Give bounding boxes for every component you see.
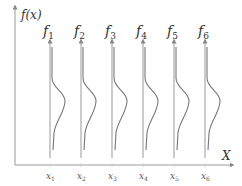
function-label-2: f2 bbox=[74, 24, 85, 41]
function-subscript: 4 bbox=[141, 31, 147, 41]
function-subscript: 3 bbox=[110, 31, 116, 41]
density-curve bbox=[176, 47, 189, 150]
x-tick-label-6: x6 bbox=[201, 172, 210, 182]
density-curve bbox=[114, 47, 127, 150]
x-subscript: 2 bbox=[82, 175, 86, 182]
distribution-4 bbox=[143, 41, 158, 167]
function-label-4: f4 bbox=[136, 24, 147, 41]
x-tick-label-4: x4 bbox=[139, 172, 148, 182]
x-tick-label-5: x5 bbox=[170, 172, 179, 182]
function-label-5: f5 bbox=[167, 24, 178, 41]
density-curve bbox=[52, 47, 65, 150]
distribution-1 bbox=[50, 41, 65, 167]
function-subscript: 5 bbox=[172, 31, 178, 41]
distribution-3 bbox=[112, 41, 127, 167]
y-axis-label: f(x) bbox=[21, 9, 42, 21]
function-subscript: 6 bbox=[203, 31, 209, 41]
x-subscript: 5 bbox=[175, 175, 179, 182]
x-tick-label-1: x1 bbox=[46, 172, 55, 182]
function-subscript: 2 bbox=[79, 31, 85, 41]
x-axis-label: X bbox=[222, 150, 231, 162]
function-label-6: f6 bbox=[198, 24, 209, 41]
x-tick-label-2: x2 bbox=[77, 172, 86, 182]
x-subscript: 4 bbox=[144, 175, 148, 182]
density-curve bbox=[207, 47, 220, 150]
density-curve bbox=[145, 47, 158, 150]
function-subscript: 1 bbox=[48, 31, 54, 41]
x-subscript: 1 bbox=[51, 175, 55, 182]
distribution-6 bbox=[205, 41, 220, 167]
distribution-2 bbox=[81, 41, 96, 167]
density-curve bbox=[83, 47, 96, 150]
x-subscript: 6 bbox=[206, 175, 210, 182]
x-subscript: 3 bbox=[113, 175, 117, 182]
function-label-3: f3 bbox=[105, 24, 116, 41]
x-tick-label-3: x3 bbox=[108, 172, 117, 182]
distribution-5 bbox=[174, 41, 189, 167]
function-label-1: f1 bbox=[43, 24, 54, 41]
